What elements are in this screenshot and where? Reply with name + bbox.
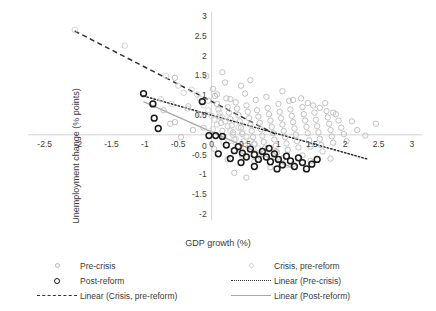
marker-pre-crisis-icon (34, 258, 80, 273)
data-point (237, 119, 242, 124)
data-point (328, 156, 333, 161)
legend-label-pre-crisis: Pre-crisis (80, 261, 115, 271)
legend-label-crisis-pre-reform: Crisis, pre-reform (274, 261, 340, 271)
x-tick-label: 1 (276, 140, 281, 149)
data-point (232, 170, 237, 175)
data-point (268, 165, 273, 170)
data-point (216, 107, 221, 112)
data-point (310, 103, 315, 108)
data-point (155, 126, 161, 132)
data-point (300, 104, 305, 109)
data-point (292, 126, 297, 131)
legend-label-linear-pre-crisis: Linear (Pre-crisis) (274, 276, 341, 286)
data-point (355, 127, 360, 132)
data-point (233, 100, 238, 105)
data-point (265, 105, 270, 110)
data-point (339, 125, 344, 130)
marker-post-reform-icon (34, 273, 80, 288)
y-tick-label: 1.5 (195, 71, 207, 80)
data-point (318, 142, 323, 147)
data-point (330, 140, 335, 145)
y-axis-title: Unemployment change (% points) (71, 88, 81, 224)
y-tick-label: 1 (202, 91, 207, 100)
data-point (264, 94, 269, 99)
data-point (298, 96, 303, 101)
data-point (276, 101, 281, 106)
data-point (312, 110, 317, 115)
dotted-line-icon (228, 273, 274, 288)
legend-item-linear-post-reform[interactable]: Linear (Post-reform) (228, 288, 428, 303)
legend-label-linear-post-reform: Linear (Post-reform) (274, 291, 350, 301)
legend-item-pre-crisis[interactable]: Pre-crisis (34, 258, 224, 273)
data-point (304, 166, 310, 172)
data-point (304, 124, 309, 129)
data-point (206, 133, 212, 139)
data-point (214, 101, 219, 106)
data-point (274, 166, 280, 172)
data-point (288, 107, 293, 112)
y-tick-label: -1.5 (192, 190, 207, 199)
data-point (314, 123, 319, 128)
data-point (278, 115, 283, 120)
trendline-0 (75, 31, 275, 134)
marker-crisis-pre-reform-icon (228, 258, 274, 273)
data-point (314, 156, 320, 162)
data-point (266, 112, 271, 117)
data-point (181, 90, 186, 95)
data-point (326, 121, 331, 126)
data-point (322, 100, 327, 105)
data-point (316, 130, 321, 135)
data-point (220, 70, 225, 75)
data-point (269, 124, 274, 129)
x-tick-label: -1.5 (104, 140, 119, 149)
data-point (190, 127, 195, 132)
data-point (280, 122, 285, 127)
legend-item-crisis-pre-reform[interactable]: Crisis, pre-reform (228, 258, 428, 273)
data-point (309, 161, 315, 167)
data-point (257, 120, 262, 125)
data-point (245, 109, 250, 114)
data-point (320, 149, 325, 154)
legend-column-right: Crisis, pre-reform Linear (Pre-crisis) L… (228, 258, 428, 303)
x-tick-label: 2 (343, 140, 348, 149)
data-point (285, 147, 290, 152)
data-point (242, 91, 247, 96)
data-point (301, 112, 306, 117)
data-point (328, 127, 333, 132)
series-pre-crisis (161, 70, 379, 181)
data-point (325, 115, 330, 120)
y-tick-label: -1 (199, 170, 207, 179)
x-tick-label: -2.5 (37, 140, 52, 149)
y-tick-label: 3 (202, 12, 207, 21)
scatter-plot-canvas (0, 0, 436, 246)
y-tick-label: -0.5 (192, 150, 207, 159)
data-point (266, 145, 272, 151)
data-point (290, 97, 295, 102)
legend-item-post-reform[interactable]: Post-reform (34, 273, 224, 288)
y-tick-label: 2.5 (195, 32, 207, 41)
y-tick-label: 0.5 (195, 111, 207, 120)
data-point (238, 160, 244, 166)
data-point (349, 119, 354, 124)
x-tick-label: -1 (141, 140, 149, 149)
legend-item-linear-pre-crisis[interactable]: Linear (Pre-crisis) (228, 273, 428, 288)
data-point (300, 160, 306, 166)
data-point (290, 119, 295, 124)
data-point (222, 80, 227, 85)
data-point (210, 86, 215, 91)
x-tick-label: 0.5 (239, 140, 251, 149)
data-point (281, 128, 286, 133)
data-point (254, 108, 259, 113)
legend-column-left: Pre-crisis Post-reform Linear (Crisis, p… (34, 258, 224, 303)
data-point (168, 121, 173, 126)
data-point (317, 136, 322, 141)
legend-label-post-reform: Post-reform (80, 276, 124, 286)
data-point (289, 113, 294, 118)
data-point (261, 139, 266, 144)
x-tick-label: 3 (410, 140, 415, 149)
data-point (244, 175, 249, 180)
scatter-chart-figure: -2.5-2-1.5-1-0.500.511.522.53-2-1.5-1-0.… (0, 0, 436, 311)
legend-item-linear-crisis-pre-reform[interactable]: Linear (Crisis, pre-reform) (34, 288, 224, 303)
x-axis-title: GDP growth (%) (0, 238, 436, 248)
data-point (228, 96, 233, 101)
